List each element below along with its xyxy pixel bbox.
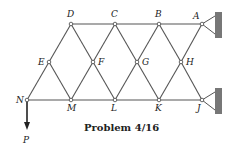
joint-label-B: B <box>154 9 162 19</box>
load-label: P <box>22 135 30 145</box>
joint-C <box>113 22 117 26</box>
joint-E <box>47 60 51 64</box>
joint-K <box>157 98 161 102</box>
joint-label-E: E <box>37 57 45 67</box>
joint-label-M: M <box>66 103 77 113</box>
member-EM <box>49 62 71 100</box>
joint-M <box>69 98 73 102</box>
member-NE <box>27 62 49 100</box>
joint-L <box>113 98 117 102</box>
member-MF <box>71 62 93 100</box>
joint-A <box>200 22 204 26</box>
joint-B <box>157 22 161 26</box>
truss-diagram: P ABCDEFGHNMLKJ Problem 4/16 <box>0 0 240 152</box>
member-HJ <box>181 62 202 100</box>
joint-F <box>91 60 95 64</box>
joint-label-C: C <box>111 9 118 19</box>
joint-label-N: N <box>15 95 25 105</box>
joint-label-H: H <box>185 57 194 67</box>
joint-J <box>200 98 204 102</box>
truss-members <box>27 24 202 100</box>
wall-lower <box>215 88 222 114</box>
support-A <box>202 12 222 38</box>
joint-N <box>25 98 29 102</box>
problem-caption: Problem 4/16 <box>84 122 159 133</box>
joint-label-A: A <box>192 11 200 21</box>
joint-label-L: L <box>110 103 117 113</box>
joint-label-G: G <box>142 57 149 67</box>
joint-label-D: D <box>66 9 74 19</box>
joint-H <box>179 60 183 64</box>
member-DF <box>71 24 93 62</box>
truss-svg: P ABCDEFGHNMLKJ Problem 4/16 <box>0 0 240 152</box>
joint-label-K: K <box>154 103 163 113</box>
support-J <box>202 88 222 114</box>
member-LG <box>115 62 137 100</box>
member-KH <box>159 62 181 100</box>
member-FL <box>93 62 115 100</box>
joint-labels: ABCDEFGHNMLKJ <box>15 9 202 113</box>
joint-label-J: J <box>195 103 202 113</box>
member-BH <box>159 24 181 62</box>
member-ED <box>49 24 71 62</box>
wall-upper <box>215 12 222 38</box>
load-arrow-icon <box>24 100 30 130</box>
truss-joints <box>25 22 204 102</box>
joint-G <box>135 60 139 64</box>
joint-label-F: F <box>97 57 105 67</box>
member-GK <box>137 62 159 100</box>
member-CG <box>115 24 137 62</box>
joint-D <box>69 22 73 26</box>
